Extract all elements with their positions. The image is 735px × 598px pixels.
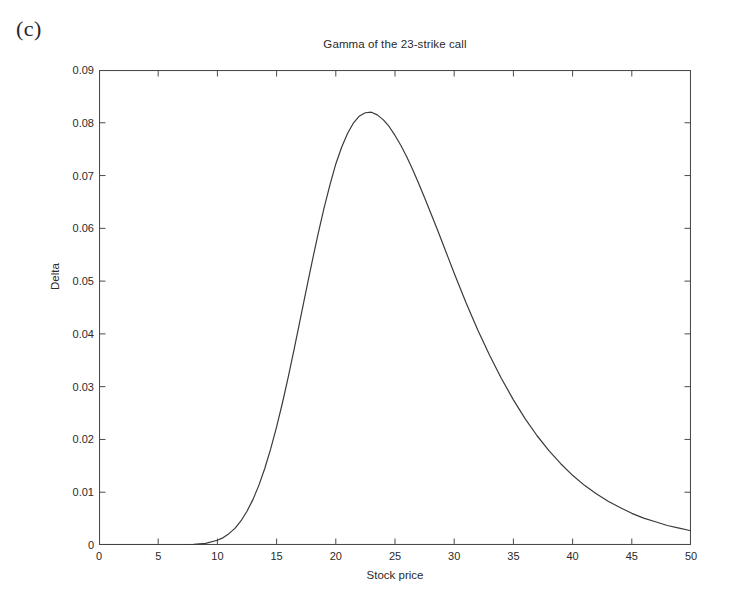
- x-tick-label: 20: [330, 550, 342, 562]
- y-tick-label: 0.02: [73, 433, 94, 445]
- plot-area: [99, 70, 691, 545]
- x-tick-label: 45: [626, 550, 638, 562]
- y-tick-label: 0.04: [73, 328, 94, 340]
- x-tick-label: 10: [211, 550, 223, 562]
- y-tick-label: 0.05: [73, 275, 94, 287]
- x-tick-label: 40: [566, 550, 578, 562]
- tick-marks: [99, 70, 691, 545]
- x-tick-label: 50: [685, 550, 697, 562]
- y-tick-label: 0.03: [73, 381, 94, 393]
- y-axis-tick-labels: 00.010.020.030.040.050.060.070.080.09: [38, 70, 94, 545]
- x-tick-label: 25: [389, 550, 401, 562]
- gamma-curve: [99, 112, 691, 545]
- y-tick-label: 0: [88, 539, 94, 551]
- subfigure-label: (c): [16, 16, 42, 42]
- chart-plot-svg: [99, 70, 691, 545]
- y-tick-label: 0.06: [73, 222, 94, 234]
- y-tick-label: 0.01: [73, 486, 94, 498]
- y-axis-label: Delta: [49, 263, 61, 290]
- chart-title: Gamma of the 23-strike call: [99, 38, 691, 50]
- y-tick-label: 0.09: [73, 64, 94, 76]
- axis-frame: [100, 71, 691, 545]
- x-axis-label: Stock price: [99, 569, 691, 581]
- x-tick-label: 0: [96, 550, 102, 562]
- x-tick-label: 35: [507, 550, 519, 562]
- x-tick-label: 15: [270, 550, 282, 562]
- figure-container: (c) Gamma of the 23-strike call 00.010.0…: [0, 0, 735, 598]
- y-tick-label: 0.07: [73, 170, 94, 182]
- x-tick-label: 30: [448, 550, 460, 562]
- y-tick-label: 0.08: [73, 117, 94, 129]
- x-axis-tick-labels: 05101520253035404550: [99, 550, 691, 568]
- data-series-gamma: [99, 112, 691, 545]
- x-tick-label: 5: [155, 550, 161, 562]
